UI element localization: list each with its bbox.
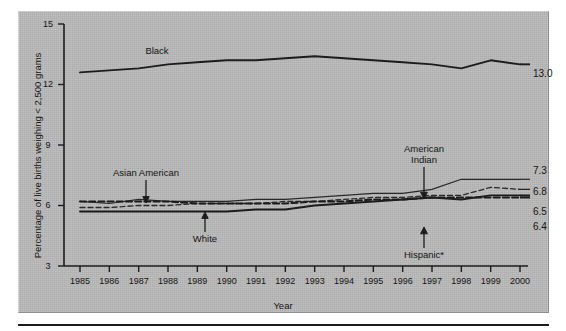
leader-hispanic [421,227,428,248]
leader-asian-american [143,180,149,203]
annotation-american-indian-line1: American [392,144,456,154]
x-tick-label-1986: 1986 [93,276,125,286]
x-tick-label-1988: 1988 [152,276,184,286]
end-label-black: 13.0 [533,68,552,79]
x-tick-label-1998: 1998 [445,276,477,286]
x-axis-title: Year [0,300,566,311]
x-axis-ticks [80,266,520,272]
y-axis-ticks [58,24,64,266]
annotation-american-indian-line2: Indian [392,155,456,165]
x-tick-label-1985: 1985 [64,276,96,286]
x-tick-label-1999: 1999 [475,276,507,286]
x-tick-label-1991: 1991 [240,276,272,286]
x-tick-label-1996: 1996 [387,276,419,286]
end-label-white: 6.5 [533,206,547,217]
end-label-american-indian: 7.3 [533,165,547,176]
x-tick-label-1994: 1994 [328,276,360,286]
y-tick-label-15: 15 [40,19,56,29]
y-tick-label-12: 12 [40,79,56,89]
y-axis-title: Percentage of live births weighing < 2,5… [32,41,43,271]
series-line-black [80,56,520,72]
end-label-hispanic: 6.4 [533,221,547,232]
leader-white [202,212,208,232]
leader-american-indian [421,167,428,199]
annotation-black: Black [132,46,182,56]
figure-root: Percentage of live births weighing < 2,5… [0,0,566,331]
x-tick-label-1997: 1997 [416,276,448,286]
x-tick-label-1995: 1995 [357,276,389,286]
x-tick-label-1989: 1989 [181,276,213,286]
x-tick-label-2000: 2000 [504,276,536,286]
end-label-asian-american: 6.8 [533,186,547,197]
x-tick-label-1990: 1990 [211,276,243,286]
x-tick-label-1987: 1987 [123,276,155,286]
x-tick-label-1993: 1993 [299,276,331,286]
series-layer [80,56,530,211]
x-tick-label-1992: 1992 [269,276,301,286]
y-tick-label-9: 9 [40,140,56,150]
annotation-hispanic: Hispanic* [394,250,454,260]
annotation-white: White [185,234,225,244]
y-tick-label-3: 3 [40,261,56,271]
annotation-asian-american: Asian American [96,168,196,178]
y-tick-label-6: 6 [40,200,56,210]
